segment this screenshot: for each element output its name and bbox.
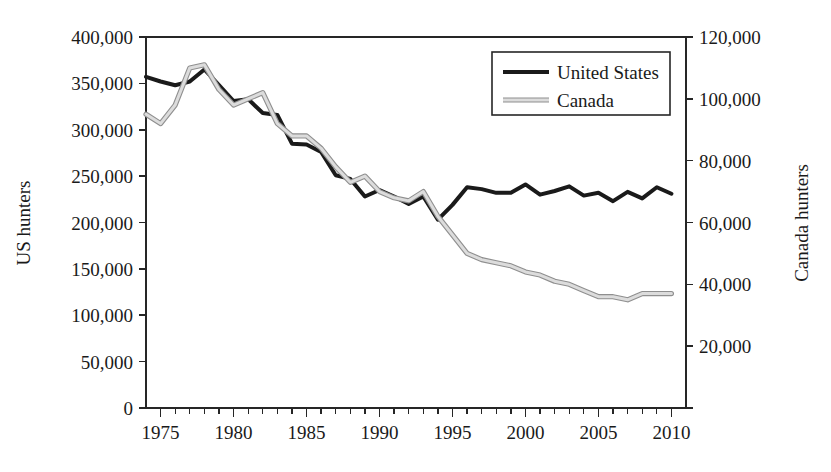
x-tick-label: 2010 <box>652 422 690 443</box>
x-tick-label: 1985 <box>288 422 326 443</box>
y-tick-label: 0 <box>124 398 134 419</box>
y2-axis-ticks: 20,00040,00060,00080,000100,000120,000 <box>686 27 761 408</box>
x-tick-label: 1975 <box>142 422 180 443</box>
y-tick-label: 350,000 <box>71 73 133 94</box>
y-tick-label: 400,000 <box>71 27 133 48</box>
y2-tick-label: 80,000 <box>699 151 751 172</box>
x-tick-label: 2005 <box>579 422 617 443</box>
y-tick-label: 50,000 <box>81 352 133 373</box>
x-tick-label: 1995 <box>433 422 471 443</box>
legend-label: United States <box>557 62 659 83</box>
y-axis-ticks: 050,000100,000150,000200,000250,000300,0… <box>71 27 146 419</box>
chart-legend: United StatesCanada <box>492 52 670 115</box>
y-tick-label: 250,000 <box>71 166 133 187</box>
y-tick-label: 100,000 <box>71 305 133 326</box>
y2-tick-label: 60,000 <box>699 213 751 234</box>
y-tick-label: 200,000 <box>71 213 133 234</box>
y2-tick-label: 40,000 <box>699 274 751 295</box>
y2-axis-title: Canada hunters <box>791 164 812 282</box>
y-axis-title: US hunters <box>13 181 34 266</box>
y-tick-label: 300,000 <box>71 120 133 141</box>
x-tick-label: 2000 <box>506 422 544 443</box>
y-tick-label: 150,000 <box>71 259 133 280</box>
y2-tick-label: 120,000 <box>699 27 761 48</box>
line-chart: 050,000100,000150,000200,000250,000300,0… <box>0 0 831 472</box>
x-tick-label: 1980 <box>215 422 253 443</box>
x-axis-ticks: 19751980198519901995200020052010 <box>142 408 691 443</box>
y2-tick-label: 20,000 <box>699 336 751 357</box>
x-tick-label: 1990 <box>361 422 399 443</box>
y2-tick-label: 100,000 <box>699 89 761 110</box>
chart-figure: 050,000100,000150,000200,000250,000300,0… <box>0 0 831 472</box>
legend-label: Canada <box>557 90 615 111</box>
